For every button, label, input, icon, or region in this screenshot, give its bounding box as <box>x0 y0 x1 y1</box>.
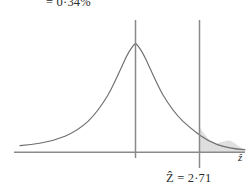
distribution-chart <box>0 0 251 193</box>
normal-distribution-figure: = 0·34% Ẑ = 2·71 ẑ <box>0 0 251 193</box>
normal-curve <box>20 43 245 150</box>
test-statistic-label: Ẑ = 2·71 <box>166 172 211 185</box>
axis-variable-label: ẑ <box>238 152 242 163</box>
tail-probability-annotation: = 0·34% <box>46 0 91 9</box>
